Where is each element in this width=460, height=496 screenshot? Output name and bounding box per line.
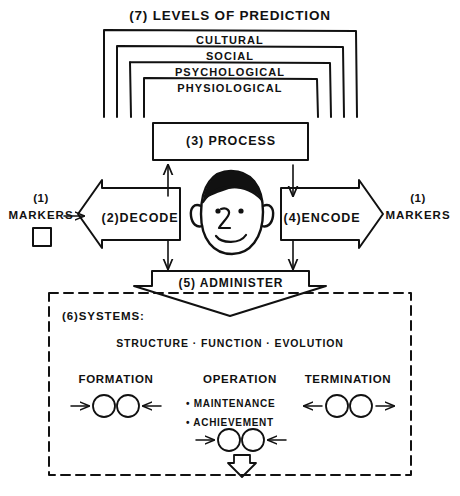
phase-label-termination: TERMINATION bbox=[305, 373, 392, 385]
termination-circle-2 bbox=[350, 395, 372, 417]
diagram-canvas: (7) LEVELS OF PREDICTION CULTURAL SOCIAL… bbox=[0, 0, 460, 496]
operation-bullet-achievement: • ACHIEVEMENT bbox=[186, 417, 274, 428]
administer-label: (5) ADMINISTER bbox=[179, 276, 284, 290]
markers-left-number: (1) bbox=[33, 192, 49, 204]
systems-heading: (6)SYSTEMS: bbox=[62, 310, 145, 322]
marker-square-icon bbox=[33, 228, 51, 246]
head-illustration bbox=[191, 171, 273, 254]
systems-triad-label: STRUCTURE · FUNCTION · EVOLUTION bbox=[116, 337, 344, 349]
page-title: (7) LEVELS OF PREDICTION bbox=[129, 8, 330, 23]
markers-left-label: MARKERS bbox=[8, 209, 73, 221]
level-label-physiological: PHYSIOLOGICAL bbox=[177, 82, 282, 94]
encode-label: (4)ENCODE bbox=[284, 211, 361, 225]
operation-output-arrow bbox=[228, 455, 256, 477]
operation-bullet-maintenance: • MAINTENANCE bbox=[186, 398, 275, 409]
operation-circle-2 bbox=[242, 429, 264, 451]
markers-right-number: (1) bbox=[410, 192, 426, 204]
markers-right-label: MARKERS bbox=[385, 209, 450, 221]
termination-circles-group bbox=[304, 395, 394, 417]
termination-circle-1 bbox=[326, 395, 348, 417]
level-label-social: SOCIAL bbox=[206, 50, 254, 62]
formation-circle-1 bbox=[93, 395, 115, 417]
phase-label-formation: FORMATION bbox=[78, 373, 153, 385]
operation-circle-1 bbox=[218, 429, 240, 451]
process-label: (3) PROCESS bbox=[186, 134, 276, 148]
operation-circles-group bbox=[196, 429, 286, 477]
level-label-cultural: CULTURAL bbox=[196, 34, 264, 46]
phase-label-operation: OPERATION bbox=[203, 373, 277, 385]
decode-label: (2)DECODE bbox=[102, 211, 179, 225]
formation-circle-2 bbox=[117, 395, 139, 417]
level-label-psychological: PSYCHOLOGICAL bbox=[175, 66, 285, 78]
formation-circles-group bbox=[71, 395, 161, 417]
